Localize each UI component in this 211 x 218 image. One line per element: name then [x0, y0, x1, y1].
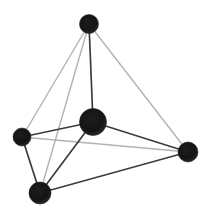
vertex-sphere-right — [178, 142, 198, 162]
diagram-canvas — [0, 0, 211, 218]
vertex-sphere-left — [13, 128, 31, 146]
edge-top-bottom — [40, 24, 89, 193]
vertex-sphere-bottom — [29, 182, 51, 204]
edge-top-left — [22, 24, 89, 137]
edge-top-right — [89, 24, 188, 152]
vertex-sphere-center — [80, 109, 107, 136]
edge-top-center — [89, 24, 93, 122]
tetrahedron-diagram — [0, 0, 211, 218]
vertex-sphere-top — [80, 15, 99, 34]
edges-layer — [22, 24, 188, 193]
edge-right-bottom — [40, 152, 188, 193]
